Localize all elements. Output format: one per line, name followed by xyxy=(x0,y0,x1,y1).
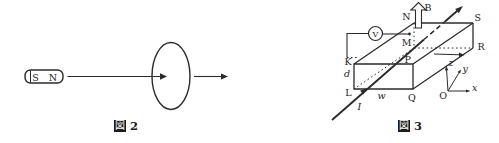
axis-origin-label: O xyxy=(439,90,447,101)
current-arrow xyxy=(332,6,463,120)
axis-x-label: x xyxy=(472,82,478,93)
vertex-label-P: P xyxy=(405,54,412,65)
figure3-caption-kanji: 図 xyxy=(398,120,410,132)
magnet-south-pole-label: S xyxy=(32,72,39,83)
figure2-diagram: S N xyxy=(25,43,228,110)
figure3-diagram: V K L P Q M N S R xyxy=(332,2,486,120)
magnet-north-pole-label: N xyxy=(49,72,57,83)
vertex-label-S: S xyxy=(475,12,482,23)
vertex-label-Q: Q xyxy=(408,92,416,103)
vertex-label-K: K xyxy=(344,56,352,67)
physics-textbook-figures: S N xyxy=(0,0,499,143)
bar-magnet xyxy=(25,70,63,83)
voltmeter-label: V xyxy=(372,30,379,39)
figure2-caption-number: 2 xyxy=(130,119,138,133)
vertex-label-L: L xyxy=(345,87,352,98)
vertex-label-N: N xyxy=(402,11,410,22)
field-label: B xyxy=(425,2,432,13)
vertex-label-R: R xyxy=(478,41,486,52)
exit-arrow xyxy=(194,74,228,80)
axis-z-label: z xyxy=(448,57,455,68)
current-label: I xyxy=(357,101,362,112)
width-label: w xyxy=(377,90,385,101)
figure2-caption-kanji: 図 xyxy=(114,120,126,132)
vertex-label-M: M xyxy=(402,37,412,48)
figure3-caption-number: 3 xyxy=(414,119,422,133)
axis-y-label: y xyxy=(462,63,469,74)
thickness-label: d xyxy=(344,68,350,79)
figure2-caption: 図 2 xyxy=(104,119,148,133)
wire-contact-dot xyxy=(408,33,411,36)
figure3-caption: 図 3 xyxy=(388,119,432,133)
